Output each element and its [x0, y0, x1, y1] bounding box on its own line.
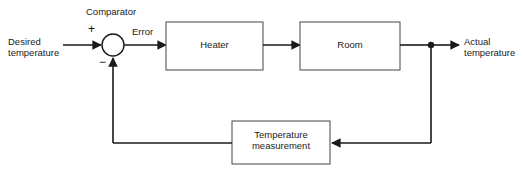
output-junction-dot — [428, 42, 434, 48]
block-label-heater: Heater — [166, 39, 263, 50]
block-label-temperature-measurement: Temperature measurement — [232, 129, 330, 151]
output-label-actual-temperature: Actual temperature — [464, 36, 515, 58]
block-diagram-canvas: Desired temperature Actual temperature C… — [0, 0, 524, 185]
comparator-circle — [102, 34, 124, 56]
comparator-minus-sign: − — [99, 55, 106, 69]
comparator-plus-sign: + — [88, 22, 95, 36]
error-signal-label: Error — [132, 26, 153, 37]
block-label-room: Room — [300, 39, 400, 50]
input-label-desired-temperature: Desired temperature — [8, 36, 59, 58]
diagram-vector-layer — [0, 0, 524, 185]
comparator-caption: Comparator — [86, 6, 136, 17]
